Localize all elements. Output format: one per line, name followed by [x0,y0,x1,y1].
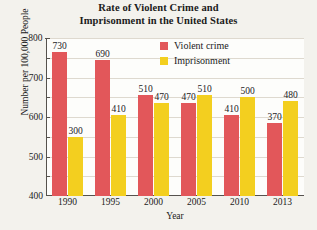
bar: 410 [111,115,126,196]
legend-item: Imprisonment [160,55,230,66]
bar-value-label: 730 [52,41,66,51]
bar-value-label: 510 [197,84,211,94]
bar-value-label: 370 [267,112,281,122]
bar-value-label: 690 [95,49,109,59]
bar-value-label: 470 [154,92,168,102]
bar: 500 [240,97,255,196]
bar: 510 [138,95,153,196]
bar-value-label: 410 [224,104,238,114]
legend-swatch-icon [160,42,168,50]
y-axis-tick-label: 800 [28,33,42,43]
bar-value-label: 470 [181,92,195,102]
bar: 410 [224,115,239,196]
chart-title-line-2: Imprisonment in the United States [0,15,317,28]
bar-value-label: 500 [240,86,254,96]
chart-title-line-1: Rate of Violent Crime and [0,2,317,15]
legend-item: Violent crime [160,40,230,51]
bar: 370 [267,123,282,196]
bar: 730 [52,52,67,196]
bar-group: 730300 [52,38,83,196]
y-axis-tick-label: 400 [29,191,43,201]
bar-value-label: 300 [68,126,82,136]
legend-item-label: Violent crime [174,40,229,51]
bar-value-label: 510 [138,84,152,94]
x-axis-tick-label: 1995 [91,197,131,207]
x-axis-tick-label: 2005 [177,197,217,207]
x-axis-tick-label: 2000 [134,197,174,207]
x-axis-tick-label: 2013 [263,197,303,207]
bar: 300 [68,137,83,196]
legend-swatch-icon [160,57,168,65]
y-axis-tick-label: 700 [29,73,43,83]
chart-title: Rate of Violent Crime and Imprisonment i… [0,2,317,27]
x-axis-tick-label: 1990 [48,197,88,207]
bar-group: 370480 [267,38,298,196]
y-axis-tick-label: 600 [29,112,43,122]
bar: 510 [197,95,212,196]
legend: Violent crimeImprisonment [160,40,230,66]
x-axis-tick-labels: 199019952000200520102013 [46,197,304,207]
bar: 470 [154,103,169,196]
bar-value-label: 480 [283,90,297,100]
legend-item-label: Imprisonment [174,55,230,66]
x-axis-title: Year [46,211,304,221]
y-axis-tick-label: 500 [29,152,43,162]
bar: 480 [283,101,298,196]
bar: 690 [95,60,110,196]
bar-chart: Rate of Violent Crime and Imprisonment i… [0,0,317,230]
x-axis-tick-label: 2010 [220,197,260,207]
bar-group: 690410 [95,38,126,196]
bar: 470 [181,103,196,196]
bar-value-label: 410 [111,104,125,114]
